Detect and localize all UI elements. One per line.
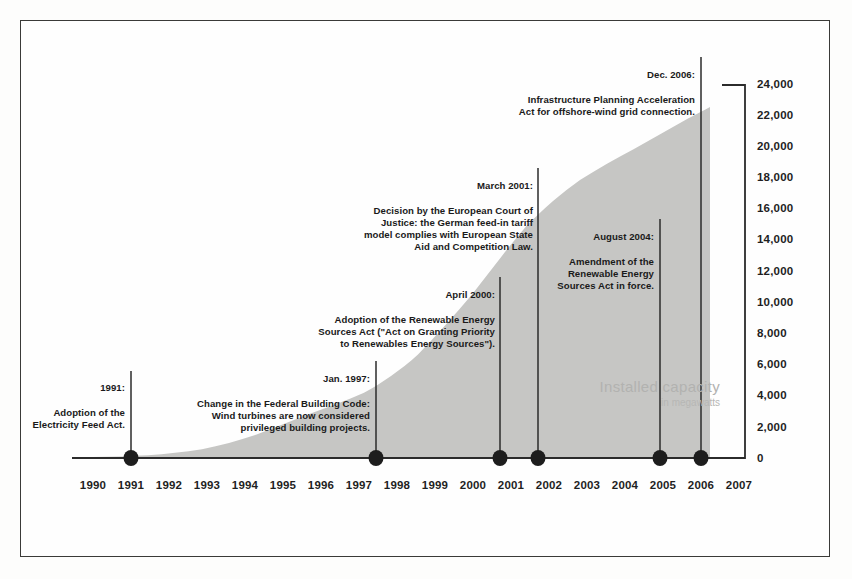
x-tick-1990: 1990 bbox=[80, 479, 106, 491]
annotation-2000-date: April 2000: bbox=[318, 289, 495, 301]
y-tick-0: 0 bbox=[757, 452, 764, 464]
annotation-1991: 1991: Adoption of the Electricity Feed A… bbox=[28, 370, 125, 443]
y-tick-20000: 20,000 bbox=[757, 140, 793, 152]
x-tick-2002: 2002 bbox=[536, 479, 562, 491]
x-tick-2000: 2000 bbox=[460, 479, 486, 491]
x-tick-1994: 1994 bbox=[232, 479, 258, 491]
annotation-1997: Jan. 1997: Change in the Federal Buildin… bbox=[196, 361, 370, 446]
annotation-2004-body: Amendment of the Renewable Energy Source… bbox=[551, 256, 654, 293]
x-tick-1998: 1998 bbox=[384, 479, 410, 491]
y-tick-4000: 4,000 bbox=[757, 389, 787, 401]
y-tick-18000: 18,000 bbox=[757, 171, 793, 183]
annotation-2006-date: Dec. 2006: bbox=[505, 69, 695, 81]
y-tick-10000: 10,000 bbox=[757, 296, 793, 308]
annotation-2006-body: Infrastructure Planning Acceleration Act… bbox=[505, 94, 695, 118]
installed-capacity-title: Installed capacity bbox=[560, 378, 720, 395]
annotation-2004-date: August 2004: bbox=[551, 231, 654, 243]
y-tick-12000: 12,000 bbox=[757, 265, 793, 277]
x-tick-1992: 1992 bbox=[156, 479, 182, 491]
axis-marker-2001 bbox=[531, 450, 546, 466]
annotation-2001-body: Decision by the European Court of Justic… bbox=[359, 205, 533, 254]
y-axis-line bbox=[722, 85, 745, 458]
axis-marker-2006 bbox=[694, 450, 709, 466]
annotation-2006: Dec. 2006: Infrastructure Planning Accel… bbox=[505, 57, 695, 130]
y-tick-6000: 6,000 bbox=[757, 358, 787, 370]
annotation-1997-body: Change in the Federal Building Code: Win… bbox=[196, 398, 370, 435]
installed-capacity-label: Installed capacity in megawatts bbox=[560, 378, 720, 408]
annotation-2000-body: Adoption of the Renewable Energy Sources… bbox=[318, 314, 495, 351]
axis-marker-1991 bbox=[124, 450, 139, 466]
chart-plot-area: 24,000 22,000 20,000 18,000 16,000 14,00… bbox=[0, 0, 852, 579]
y-tick-22000: 22,000 bbox=[757, 109, 793, 121]
x-tick-1995: 1995 bbox=[270, 479, 296, 491]
x-tick-1996: 1996 bbox=[308, 479, 334, 491]
x-tick-1993: 1993 bbox=[194, 479, 220, 491]
annotation-2000: April 2000: Adoption of the Renewable En… bbox=[318, 277, 495, 362]
y-tick-14000: 14,000 bbox=[757, 233, 793, 245]
x-tick-2007: 2007 bbox=[726, 479, 752, 491]
x-tick-1999: 1999 bbox=[422, 479, 448, 491]
installed-capacity-subtitle: in megawatts bbox=[560, 397, 720, 408]
y-tick-24000: 24,000 bbox=[757, 78, 793, 90]
annotation-2004: August 2004: Amendment of the Renewable … bbox=[551, 219, 654, 304]
axis-marker-2000 bbox=[493, 450, 508, 466]
annotation-1991-body: Adoption of the Electricity Feed Act. bbox=[28, 407, 125, 431]
x-tick-2006: 2006 bbox=[688, 479, 714, 491]
y-tick-8000: 8,000 bbox=[757, 327, 787, 339]
chart-page: 24,000 22,000 20,000 18,000 16,000 14,00… bbox=[0, 0, 852, 579]
annotation-2001-date: March 2001: bbox=[359, 180, 533, 192]
x-tick-1991: 1991 bbox=[118, 479, 144, 491]
x-tick-2003: 2003 bbox=[574, 479, 600, 491]
x-tick-2004: 2004 bbox=[612, 479, 638, 491]
annotation-1997-date: Jan. 1997: bbox=[196, 373, 370, 385]
annotation-2001: March 2001: Decision by the European Cou… bbox=[359, 168, 533, 266]
x-tick-2005: 2005 bbox=[650, 479, 676, 491]
axis-marker-1997 bbox=[369, 450, 384, 466]
y-tick-2000: 2,000 bbox=[757, 421, 787, 433]
x-tick-2001: 2001 bbox=[498, 479, 524, 491]
x-tick-1997: 1997 bbox=[346, 479, 372, 491]
y-tick-16000: 16,000 bbox=[757, 202, 793, 214]
axis-marker-2004 bbox=[653, 450, 668, 466]
annotation-1991-date: 1991: bbox=[28, 382, 125, 394]
